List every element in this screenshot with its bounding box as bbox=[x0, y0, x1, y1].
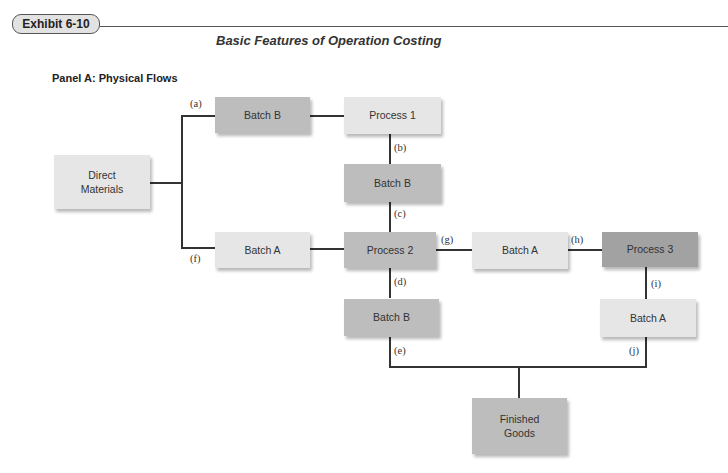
connector-c bbox=[389, 202, 391, 232]
flow-label-f: (f) bbox=[190, 253, 201, 264]
node-batch-b-top: Batch B bbox=[215, 97, 310, 133]
connector-trunk-vertical bbox=[181, 115, 183, 248]
connector-h bbox=[568, 249, 603, 251]
node-process-1: Process 1 bbox=[344, 97, 441, 134]
node-direct-materials: Direct Materials bbox=[54, 155, 150, 209]
connector-batcha-process2 bbox=[310, 248, 345, 250]
node-batch-a-mid: Batch A bbox=[472, 232, 568, 269]
flow-label-c: (c) bbox=[394, 208, 406, 219]
node-process-3: Process 3 bbox=[602, 232, 698, 267]
node-direct-materials-line1: Direct bbox=[88, 168, 115, 182]
connector-b bbox=[389, 134, 391, 164]
connector-d bbox=[389, 268, 391, 298]
flow-label-h: (h) bbox=[571, 234, 583, 245]
flow-label-e: (e) bbox=[394, 345, 406, 356]
connector-finished-goods bbox=[518, 366, 520, 398]
connector-batchb-process1 bbox=[310, 115, 345, 117]
connector-j bbox=[645, 337, 647, 367]
node-finished-goods: Finished Goods bbox=[472, 398, 567, 454]
connector-f bbox=[181, 247, 216, 249]
connector-e bbox=[389, 337, 391, 367]
flow-label-a: (a) bbox=[190, 98, 202, 109]
node-batch-b-mid: Batch B bbox=[344, 164, 441, 202]
connector-g bbox=[436, 249, 472, 251]
panel-title: Panel A: Physical Flows bbox=[52, 72, 178, 84]
flow-label-g: (g) bbox=[441, 234, 453, 245]
connector-a bbox=[181, 115, 216, 117]
connector-dm-trunk bbox=[150, 182, 182, 184]
node-direct-materials-line2: Materials bbox=[81, 182, 124, 196]
node-finished-goods-line2: Goods bbox=[504, 426, 535, 440]
node-finished-goods-line1: Finished bbox=[500, 412, 540, 426]
node-process-2: Process 2 bbox=[344, 232, 436, 268]
node-batch-a-left: Batch A bbox=[215, 232, 310, 268]
connector-i bbox=[645, 267, 647, 299]
exhibit-label: Exhibit 6-10 bbox=[12, 14, 100, 34]
flow-label-i: (i) bbox=[651, 278, 661, 289]
node-batch-b-bottom: Batch B bbox=[344, 299, 439, 336]
node-batch-a-right: Batch A bbox=[600, 299, 696, 337]
flow-label-d: (d) bbox=[394, 276, 406, 287]
header-rule bbox=[100, 26, 728, 27]
flow-label-b: (b) bbox=[394, 142, 406, 153]
flow-label-j: (j) bbox=[629, 345, 639, 356]
diagram-title: Basic Features of Operation Costing bbox=[216, 33, 441, 48]
